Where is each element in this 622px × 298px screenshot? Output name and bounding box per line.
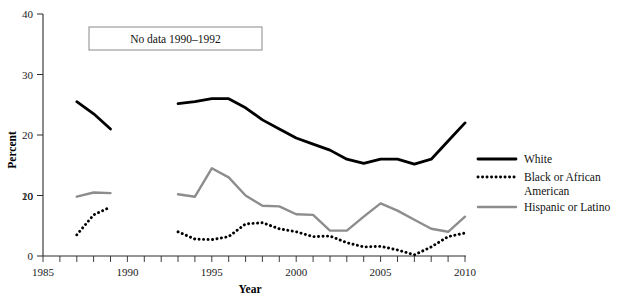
x-axis-minor-ticks	[43, 256, 465, 262]
y-tick-label-10: 10	[22, 190, 34, 202]
x-axis-title: Year	[239, 283, 262, 295]
data-series-layer	[77, 99, 465, 255]
chart-legend: White Black or African American Hispanic…	[478, 153, 610, 214]
series-line-black-or-african-american-segment-1	[77, 207, 111, 235]
no-data-annotation: No data 1990–1992	[89, 27, 262, 50]
y-tick-label-0: 0	[28, 250, 34, 262]
x-tick-label-1990: 1990	[116, 266, 139, 278]
y-axis-title: Percent	[6, 131, 18, 169]
line-chart-canvas: 40 30 20 10 0 20	[0, 0, 622, 298]
y-tick-label-40: 40	[22, 8, 34, 20]
legend-label-black-or-african-american: Black or African	[524, 171, 601, 183]
x-axis-tick-labels: 1985 1990 1995 2000 2005 2010	[32, 266, 477, 278]
x-tick-label-1985: 1985	[32, 266, 55, 278]
legend-label-hispanic-or-latino: Hispanic or Latino	[524, 201, 610, 214]
series-line-white-segment-1	[77, 102, 111, 129]
y-tick-label-30: 30	[22, 69, 34, 81]
series-line-hispanic-or-latino-segment-2	[178, 168, 465, 232]
x-tick-label-2005: 2005	[370, 266, 393, 278]
series-line-white-segment-2	[178, 99, 465, 164]
legend-label-white: White	[524, 153, 552, 165]
x-tick-label-2010: 2010	[454, 266, 477, 278]
x-tick-label-1995: 1995	[201, 266, 224, 278]
y-tick-label-20-fixed: 20	[22, 129, 34, 141]
series-line-black-or-african-american-segment-2	[178, 223, 465, 255]
series-line-hispanic-or-latino-segment-1	[77, 192, 111, 196]
x-tick-label-2000: 2000	[285, 266, 308, 278]
no-data-annotation-label: No data 1990–1992	[130, 33, 221, 45]
legend-label-black-or-african-american-line2: American	[524, 185, 570, 197]
chart-figure: 40 30 20 10 0 20	[0, 0, 622, 298]
